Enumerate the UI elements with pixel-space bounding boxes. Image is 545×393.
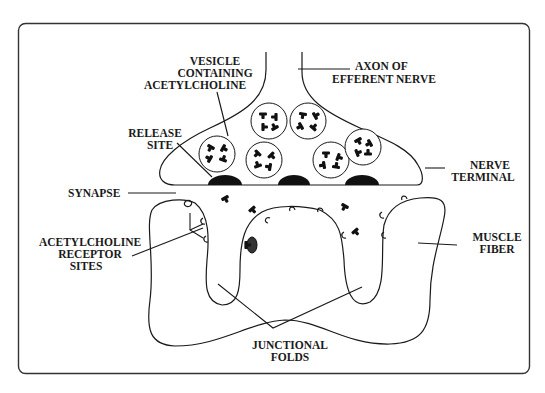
muscle-fiber-outline [149, 198, 445, 346]
svg-text:MUSCLE: MUSCLE [472, 231, 522, 243]
svg-text:EFFERENT NERVE: EFFERENT NERVE [332, 73, 436, 85]
svg-text:ACETYLCHOLINE: ACETYLCHOLINE [39, 236, 142, 248]
label-muscle-fiber: MUSCLE FIBER [472, 231, 522, 255]
svg-text:SITE: SITE [147, 139, 174, 151]
svg-text:AXON OF: AXON OF [355, 60, 408, 72]
label-axon: AXON OF EFFERENT NERVE [332, 60, 436, 85]
svg-text:TERMINAL: TERMINAL [451, 171, 515, 183]
svg-text:FIBER: FIBER [479, 243, 515, 255]
neuromuscular-junction-diagram: VESICLE CONTAINING ACETYLCHOLINE AXON OF… [0, 0, 545, 393]
leader-lines [128, 69, 457, 328]
label-receptor-sites: ACETYLCHOLINE RECEPTOR SITES [39, 236, 142, 272]
svg-text:JUNCTIONAL: JUNCTIONAL [252, 339, 328, 351]
label-synapse: SYNAPSE [68, 187, 121, 199]
label-nerve-terminal: NERVE TERMINAL [451, 159, 515, 183]
label-release-site: RELEASE SITE [128, 127, 182, 151]
svg-text:SYNAPSE: SYNAPSE [68, 187, 121, 199]
svg-text:RECEPTOR: RECEPTOR [58, 248, 122, 260]
svg-text:RELEASE: RELEASE [128, 127, 182, 139]
svg-text:FOLDS: FOLDS [271, 351, 309, 363]
bound-acetylcholine [244, 237, 257, 253]
free-acetylcholine [221, 195, 362, 238]
svg-text:SITES: SITES [70, 260, 103, 272]
vesicles [199, 103, 381, 178]
label-vesicle: VESICLE CONTAINING ACETYLCHOLINE [144, 55, 253, 91]
release-sites [208, 175, 379, 185]
svg-text:NERVE: NERVE [470, 159, 510, 171]
label-junctional-folds: JUNCTIONAL FOLDS [252, 339, 328, 363]
receptor-sites [184, 196, 407, 242]
svg-text:VESICLE: VESICLE [190, 55, 241, 67]
svg-text:CONTAINING: CONTAINING [177, 67, 252, 79]
svg-text:ACETYLCHOLINE: ACETYLCHOLINE [144, 79, 247, 91]
